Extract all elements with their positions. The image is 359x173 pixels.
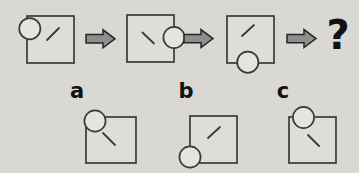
answer-option-a[interactable] xyxy=(84,110,136,163)
sequence-step-2 xyxy=(127,15,185,62)
arrow-right-icon-1 xyxy=(86,30,115,48)
sequence-step-2-circle xyxy=(163,27,184,48)
arrow-right-icon-2 xyxy=(184,30,213,48)
answer-option-b-circle xyxy=(179,146,200,167)
sequence-step-3 xyxy=(227,16,274,73)
option-label-c[interactable]: c xyxy=(277,79,289,104)
answer-option-a-circle xyxy=(84,110,105,131)
sequence-step-1-circle xyxy=(19,18,40,39)
puzzle-canvas: ? a b c xyxy=(0,0,359,173)
question-mark: ? xyxy=(326,15,349,55)
answer-option-b[interactable] xyxy=(179,116,237,168)
answer-option-c[interactable] xyxy=(289,107,336,163)
sequence-step-1 xyxy=(19,16,74,63)
option-label-b[interactable]: b xyxy=(178,79,193,104)
sequence-step-3-circle xyxy=(237,52,258,73)
option-label-a[interactable]: a xyxy=(70,79,84,104)
answer-option-c-circle xyxy=(293,107,314,128)
arrow-right-icon-3 xyxy=(287,30,316,48)
